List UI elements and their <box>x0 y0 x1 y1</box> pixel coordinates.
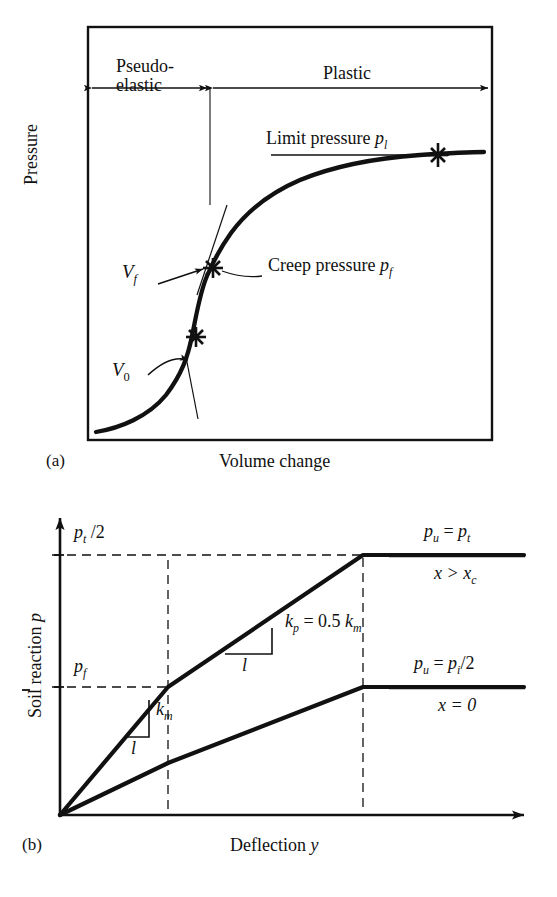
ytick-label-pf: pf <box>74 657 86 679</box>
kp-slope-label: kp = 0.5 km <box>285 612 362 634</box>
panel-b-y-axis-label: Soil reaction p <box>26 613 45 718</box>
km-slope-label: km <box>156 700 173 722</box>
plateau-label-upper-bottom: x > xc <box>434 564 476 586</box>
figure-container: Pseudo- elastic Plastic Limit pressure p… <box>0 0 557 897</box>
plateau-label-lower-top: pu = pi/2 <box>414 654 474 676</box>
kp-run-label: l <box>242 656 247 675</box>
panel-b-x-axis-label: Deflection y <box>230 836 318 855</box>
panel-b-graphics <box>0 0 557 897</box>
panel-b-tag: (b) <box>22 836 42 854</box>
ytick-label-pt-half: pt /2 <box>74 523 105 545</box>
plateau-label-upper-top: pu = pt <box>424 522 470 544</box>
km-run-label: l <box>131 739 136 758</box>
plateau-label-lower-bottom: x = 0 <box>438 696 476 715</box>
